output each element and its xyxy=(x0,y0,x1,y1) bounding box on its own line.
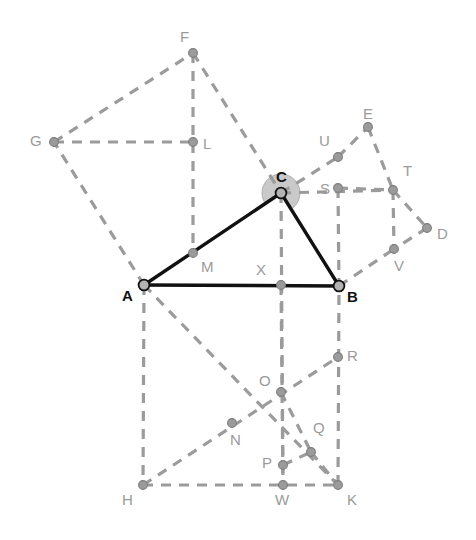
point-label-M: M xyxy=(201,259,214,274)
vertex-node-U[interactable] xyxy=(334,153,343,162)
vertex-node-Q[interactable] xyxy=(307,448,316,457)
edge-D-V xyxy=(394,228,427,249)
edge-B-V xyxy=(339,249,394,286)
vertex-node-C[interactable] xyxy=(276,188,287,199)
point-label-N: N xyxy=(230,432,241,447)
vertex-nodes-group xyxy=(50,49,432,490)
vertex-node-L[interactable] xyxy=(189,138,198,147)
point-label-F: F xyxy=(180,29,189,44)
vertex-node-R[interactable] xyxy=(334,353,343,362)
edge-K-B xyxy=(338,286,339,485)
point-label-H: H xyxy=(122,492,133,507)
edge-U-E xyxy=(338,127,368,157)
point-label-B: B xyxy=(347,289,358,304)
vertex-node-W[interactable] xyxy=(279,481,288,490)
point-label-K: K xyxy=(347,492,357,507)
vertex-node-S[interactable] xyxy=(334,184,343,193)
point-label-S: S xyxy=(320,181,330,196)
vertex-node-V[interactable] xyxy=(390,245,399,254)
vertex-node-K[interactable] xyxy=(334,481,343,490)
edge-C-X-W xyxy=(281,193,283,485)
vertex-node-M[interactable] xyxy=(189,249,198,258)
point-label-X: X xyxy=(256,262,266,277)
point-label-Q: Q xyxy=(313,420,325,435)
point-label-P: P xyxy=(262,455,272,470)
edge-A-B xyxy=(144,285,339,286)
edge-A-G xyxy=(54,142,144,285)
point-label-C: C xyxy=(276,169,287,184)
vertex-node-O[interactable] xyxy=(277,388,286,397)
point-label-U: U xyxy=(319,133,330,148)
point-label-A: A xyxy=(122,288,133,303)
diagram-canvas: ABCDEFGHKLMNOPQRSTUVWX xyxy=(0,0,476,540)
point-label-D: D xyxy=(437,226,448,241)
edge-T-V xyxy=(393,190,394,249)
point-label-T: T xyxy=(403,163,412,178)
geometry-figure xyxy=(0,0,476,540)
point-label-L: L xyxy=(203,136,211,151)
vertex-node-G[interactable] xyxy=(50,138,59,147)
edge-S-B xyxy=(338,188,339,286)
vertex-node-B[interactable] xyxy=(334,281,345,292)
point-label-E: E xyxy=(363,106,373,121)
edge-F-C xyxy=(193,53,281,193)
solid-edges-group xyxy=(144,193,339,286)
point-label-O: O xyxy=(259,373,271,388)
edge-Q-K xyxy=(311,452,338,485)
edge-H-R xyxy=(143,357,338,485)
point-label-G: G xyxy=(30,133,42,148)
vertex-node-A[interactable] xyxy=(139,280,150,291)
vertex-node-N[interactable] xyxy=(228,419,237,428)
point-label-V: V xyxy=(394,258,404,273)
edge-C-B xyxy=(281,193,339,286)
vertex-node-P[interactable] xyxy=(279,461,288,470)
vertex-node-X[interactable] xyxy=(277,281,286,290)
point-label-R: R xyxy=(347,348,358,363)
vertex-node-H[interactable] xyxy=(139,481,148,490)
edge-A-H xyxy=(143,285,144,485)
vertex-node-T[interactable] xyxy=(389,186,398,195)
vertex-node-D[interactable] xyxy=(423,224,432,233)
point-label-W: W xyxy=(275,492,289,507)
edge-S-T xyxy=(338,188,393,190)
edge-E-T xyxy=(368,127,393,190)
edge-T-D xyxy=(393,190,427,228)
edge-G-F xyxy=(54,53,193,142)
vertex-node-F[interactable] xyxy=(189,49,198,58)
vertex-node-E[interactable] xyxy=(364,123,373,132)
